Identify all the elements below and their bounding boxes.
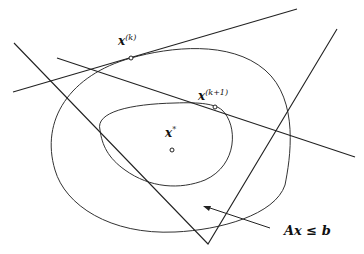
arrowhead-icon bbox=[203, 206, 211, 211]
cutting-plane-k bbox=[13, 9, 297, 92]
point-xk1 bbox=[213, 105, 217, 109]
label-xk1: x(k+1) bbox=[198, 89, 228, 102]
inner-level-curve bbox=[100, 103, 233, 186]
label-xk: x(k) bbox=[118, 34, 136, 47]
constraint-arrow bbox=[207, 207, 270, 228]
label-xstar: x* bbox=[165, 126, 176, 139]
point-xk bbox=[129, 56, 133, 60]
diagram-svg bbox=[0, 0, 364, 254]
label-constraint: Ax ≤ b bbox=[284, 224, 331, 237]
point-xstar bbox=[170, 148, 174, 152]
diagram-canvas: x(k) x(k+1) x* Ax ≤ b bbox=[0, 0, 364, 254]
